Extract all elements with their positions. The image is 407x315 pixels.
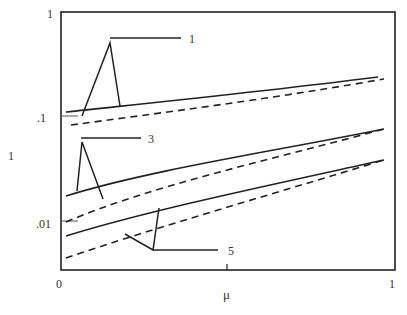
annotation-1: 1 bbox=[189, 33, 195, 45]
leader-1 bbox=[82, 43, 120, 116]
annotation-3: 3 bbox=[148, 133, 154, 145]
curve-5-dashed bbox=[66, 160, 384, 258]
x-tick-label-1: 1 bbox=[389, 278, 395, 290]
y-tick-label-0.01: .01 bbox=[36, 218, 51, 230]
leader-3 bbox=[77, 142, 103, 199]
curve-3-solid bbox=[66, 129, 384, 196]
x-tick-label-0: 0 bbox=[56, 278, 62, 290]
curve-1-solid bbox=[66, 77, 378, 112]
curve-5-solid bbox=[66, 160, 384, 236]
annotation-5: 5 bbox=[228, 245, 234, 257]
curve-3-dashed bbox=[66, 129, 384, 222]
x-axis-label: μ bbox=[223, 289, 230, 301]
y-tick-label-1: 1 bbox=[47, 8, 53, 20]
curve-1-dashed bbox=[71, 79, 384, 125]
y-axis-label: 1 bbox=[8, 150, 14, 162]
chart-canvas bbox=[0, 0, 407, 315]
y-tick-label-0.1: .1 bbox=[37, 112, 46, 124]
